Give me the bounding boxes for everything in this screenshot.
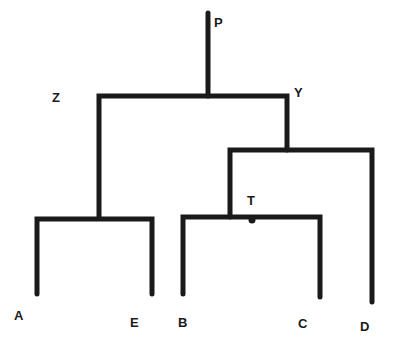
leaf-label-a: A	[14, 309, 23, 322]
node-label-p: P	[214, 16, 223, 29]
edge-b-c-crossbar	[183, 217, 320, 297]
tree-diagram	[0, 0, 399, 353]
node-label-y: Y	[294, 86, 303, 99]
node-label-z: Z	[52, 91, 60, 104]
leaf-label-e: E	[130, 316, 139, 329]
leaf-label-d: D	[360, 320, 369, 333]
edge-z-y-crossbar	[99, 96, 287, 218]
leaf-label-b: B	[178, 316, 187, 329]
leaf-label-c: C	[298, 317, 307, 330]
edge-a-e-crossbar	[37, 219, 152, 294]
node-label-t: T	[247, 194, 255, 207]
node-t-dot	[249, 217, 256, 224]
edge-t-d-crossbar	[230, 150, 372, 302]
